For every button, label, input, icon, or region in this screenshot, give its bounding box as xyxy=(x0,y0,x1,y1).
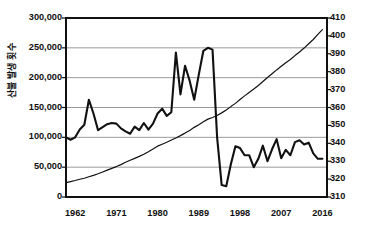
chart-plot-area xyxy=(0,0,376,235)
chart-container: 산불 발생 횟수 050,000100,000150,000200,000250… xyxy=(0,0,376,235)
